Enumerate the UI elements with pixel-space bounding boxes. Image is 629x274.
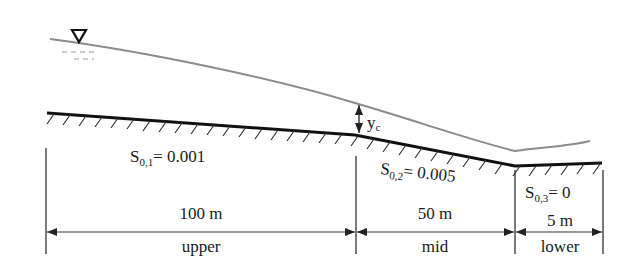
reach-name-mid: mid <box>422 237 449 256</box>
channel-profile-diagram: yc S0,1= 0.001 S0,2= 0.005 S0,3= 0 100 m… <box>0 0 629 274</box>
slope-label-lower: S0,3= 0 <box>525 183 571 204</box>
reach-name-upper: upper <box>182 237 221 256</box>
slope-label-mid: S0,2= 0.005 <box>379 159 456 188</box>
length-label-upper: 100 m <box>180 204 223 223</box>
water-surface-line <box>50 39 590 151</box>
length-label-mid: 50 m <box>418 204 452 223</box>
reach-name-lower: lower <box>541 237 580 256</box>
critical-depth-label: yc <box>367 113 381 133</box>
slope-label-upper: S0,1= 0.001 <box>130 147 205 168</box>
length-label-lower: 5 m <box>547 211 573 230</box>
